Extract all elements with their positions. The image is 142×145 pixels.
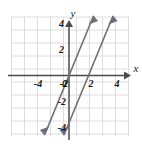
y-tick-label-2: 2 (58, 44, 64, 55)
y-axis-arrowhead (65, 20, 73, 27)
grid (12, 17, 129, 136)
y-tick-label-4: 4 (58, 18, 64, 29)
origin-label: 0 (62, 78, 67, 89)
y-tick-label--2: -2 (58, 96, 66, 107)
coordinate-plane-svg: -4 -2 0 2 4 4 2 -2 -4 y x (0, 0, 142, 145)
y-axis-label: y (70, 7, 76, 19)
x-axis-arrowhead (124, 72, 131, 80)
x-tick-label-2: 2 (88, 78, 94, 89)
x-tick-label-4: 4 (114, 78, 120, 89)
graph-figure: -4 -2 0 2 4 4 2 -2 -4 y x (0, 0, 142, 145)
y-tick-label--4: -4 (58, 122, 66, 133)
x-tick-label--4: -4 (34, 78, 42, 89)
x-axis-label: x (133, 62, 139, 74)
